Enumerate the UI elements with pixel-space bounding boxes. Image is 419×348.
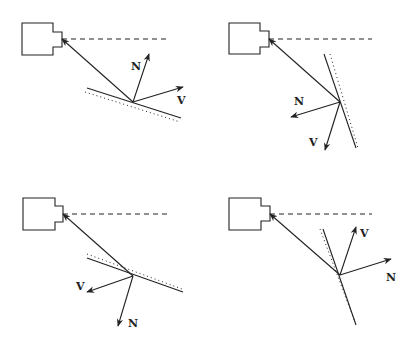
view-vector-arrow bbox=[133, 87, 183, 102]
normal-label: N bbox=[386, 271, 396, 284]
view-ray bbox=[270, 214, 340, 275]
camera-icon bbox=[22, 23, 62, 55]
view-label: V bbox=[75, 280, 85, 293]
view-vector-arrow bbox=[87, 276, 133, 292]
surface-backside-dotted-line bbox=[330, 54, 358, 148]
surface-backside-dotted-line bbox=[87, 254, 182, 289]
panel-top-right: NV bbox=[229, 23, 372, 150]
view-ray bbox=[63, 214, 133, 276]
view-ray bbox=[62, 39, 133, 102]
view-label: V bbox=[359, 227, 369, 240]
surface-backside-dotted-line bbox=[320, 229, 355, 322]
normal-label: N bbox=[128, 317, 138, 330]
view-label: V bbox=[308, 136, 318, 149]
panel-top-left: NV bbox=[22, 23, 186, 122]
surface-line bbox=[324, 54, 356, 148]
normal-vector-arrow bbox=[340, 259, 391, 275]
diagram-canvas: NVNVVNVN bbox=[0, 0, 419, 348]
surface-line bbox=[87, 88, 181, 118]
camera-icon bbox=[23, 198, 63, 230]
surface-backside-dotted-line bbox=[85, 92, 180, 122]
camera-icon bbox=[229, 198, 270, 230]
panel-bottom-right: VN bbox=[229, 198, 396, 325]
panel-bottom-left: VN bbox=[23, 198, 183, 330]
view-vector-arrow bbox=[325, 102, 340, 150]
camera-icon bbox=[229, 23, 269, 54]
view-label: V bbox=[176, 94, 186, 107]
view-vector-arrow bbox=[340, 227, 356, 275]
normal-label: N bbox=[131, 60, 141, 73]
panels-group: NVNVVNVN bbox=[22, 23, 396, 330]
normal-label: N bbox=[294, 95, 304, 108]
